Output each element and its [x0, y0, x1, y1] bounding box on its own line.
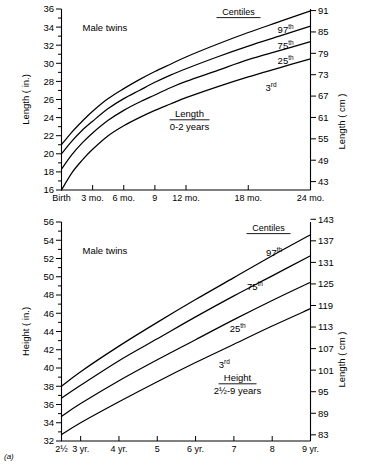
y2-axis-tick-label: 125 — [318, 278, 334, 289]
y-axis-tick-label: 32 — [43, 435, 54, 446]
panel-inner-subtitle: 0-2 years — [170, 121, 210, 132]
x-axis-tick-label: 7 — [231, 444, 236, 454]
y-axis-tick-label: 38 — [43, 381, 54, 392]
y2-axis-tick-label: 119 — [318, 300, 333, 311]
y2-axis-tick-label: 83 — [318, 429, 329, 440]
legend-title: Centiles — [252, 223, 285, 233]
y2-axis-tick-label: 79 — [318, 48, 329, 59]
growth-chart-figure: 1618202224262830323436434955616773798591… — [0, 0, 382, 465]
panel-inner-subtitle: 2½-9 years — [214, 385, 262, 396]
y-axis-tick-label: 50 — [43, 271, 54, 282]
y2-axis-tick-label: 85 — [318, 26, 329, 37]
legend-label-75th: 75th — [278, 39, 294, 51]
y-axis-tick-label: 32 — [43, 40, 54, 51]
y-axis-tick-label: 22 — [43, 130, 54, 141]
y2-axis-tick-label: 113 — [318, 321, 333, 332]
male-twins-annotation: Male twins — [83, 22, 128, 33]
legend-title: Centiles — [222, 7, 255, 17]
centile-curve-25th — [62, 282, 311, 416]
y-axis-tick-label: 42 — [43, 344, 54, 355]
y2-axis-tick-label: 101 — [318, 365, 334, 376]
male-twins-annotation: Male twins — [83, 245, 128, 256]
y2-axis-title: Length ( cm ) — [336, 332, 347, 388]
left-bottom-axis-spine — [62, 9, 311, 190]
legend-label-25th: 25th — [230, 322, 246, 334]
y-axis-tick-label: 56 — [43, 216, 54, 227]
y2-axis-title: Length ( cm ) — [336, 94, 347, 150]
y-axis-title: Length ( in.) — [20, 74, 31, 125]
y2-axis-tick-label: 43 — [318, 176, 329, 187]
x-axis-tick-label: 9 yr. — [302, 444, 319, 454]
y-axis-tick-label: 34 — [43, 22, 54, 33]
y2-axis-tick-label: 131 — [318, 257, 334, 268]
y2-axis-tick-label: 61 — [318, 112, 329, 123]
chart-panel-length: 1618202224262830323436434955616773798591… — [20, 3, 348, 202]
x-axis-tick-label: 2½ — [55, 444, 68, 454]
x-axis-tick-label: 18 mo. — [234, 193, 262, 203]
y2-axis-tick-label: 91 — [318, 5, 329, 16]
legend-label-75th: 75th — [247, 280, 263, 292]
y-axis-tick-label: 18 — [43, 166, 54, 177]
y-axis-tick-label: 26 — [43, 94, 54, 105]
figure-panel-label: (a) — [4, 452, 14, 461]
panel-inner-title: Height — [224, 372, 252, 383]
x-axis-tick-label: 3 mo. — [81, 193, 104, 203]
panel-inner-title: Length — [175, 108, 204, 119]
y-axis-tick-label: 28 — [43, 76, 54, 87]
y-axis-tick-label: 24 — [43, 112, 54, 123]
centile-curve-75th — [62, 26, 311, 154]
y-axis-tick-label: 54 — [43, 235, 54, 246]
x-axis-tick-label: 9 — [152, 193, 157, 203]
y-axis-tick-label: 36 — [43, 399, 54, 410]
x-axis-tick-label: 4 yr. — [110, 444, 127, 454]
y-axis-tick-label: 52 — [43, 253, 54, 264]
y2-axis-tick-label: 49 — [318, 155, 329, 166]
y-axis-tick-label: 46 — [43, 308, 54, 319]
growth-chart-svg: 1618202224262830323436434955616773798591… — [0, 0, 382, 465]
x-axis-tick-label: 12 mo. — [172, 193, 200, 203]
chart-panel-height: 3234363840424446485052545683899510110711… — [20, 214, 348, 454]
y2-axis-tick-label: 95 — [318, 386, 329, 397]
x-axis-tick-label: 5 — [155, 444, 160, 454]
legend-label-3rd: 3rd — [266, 81, 277, 93]
y2-axis-tick-label: 89 — [318, 408, 329, 419]
x-axis-tick-label: 6 mo. — [112, 193, 135, 203]
legend-label-3rd: 3rd — [219, 358, 230, 370]
legend-label-97th: 97th — [266, 246, 282, 258]
y2-axis-tick-label: 143 — [318, 214, 334, 225]
y-axis-tick-label: 34 — [43, 417, 54, 428]
x-axis-tick-label: 3 yr. — [72, 444, 89, 454]
y-axis-tick-label: 40 — [43, 362, 54, 373]
y-axis-tick-label: 48 — [43, 289, 54, 300]
y-axis-tick-label: 44 — [43, 326, 54, 337]
y-axis-tick-label: 30 — [43, 58, 54, 69]
y-axis-tick-label: 20 — [43, 148, 54, 159]
y2-axis-tick-label: 137 — [318, 235, 334, 246]
y-axis-title: Height ( in.) — [20, 307, 31, 356]
y2-axis-tick-label: 55 — [318, 133, 329, 144]
y2-axis-tick-label: 107 — [318, 343, 334, 354]
x-axis-tick-label: 6 yr. — [187, 444, 204, 454]
y-axis-tick-label: 36 — [43, 3, 54, 14]
x-axis-tick-label: 8 — [270, 444, 275, 454]
centile-curve-75th — [62, 256, 311, 398]
y2-axis-tick-label: 73 — [318, 69, 329, 80]
legend-label-97th: 97th — [278, 23, 294, 35]
y2-axis-tick-label: 67 — [318, 90, 329, 101]
centile-curve-3rd — [62, 309, 311, 435]
x-axis-tick-label: Birth — [52, 193, 71, 203]
x-axis-tick-label: 24 mo. — [297, 193, 325, 203]
